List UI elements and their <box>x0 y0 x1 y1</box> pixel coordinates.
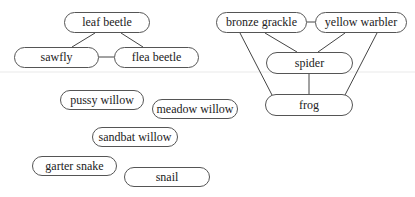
edge-bronze-grackle-to-spider <box>265 33 297 52</box>
node-label: garter snake <box>45 159 103 174</box>
node-label: sandbat willow <box>99 130 172 145</box>
node-label: spider <box>295 56 324 71</box>
edge-leaf-beetle-to-flea-beetle <box>121 33 143 47</box>
node-sawfly[interactable]: sawfly <box>14 47 99 68</box>
node-leaf-beetle[interactable]: leaf beetle <box>64 12 150 33</box>
node-spider[interactable]: spider <box>266 52 353 74</box>
node-label: flea beetle <box>132 50 182 65</box>
edge-yellow-warbler-to-spider <box>318 33 345 52</box>
node-frog[interactable]: frog <box>265 94 353 116</box>
node-meadow-willow[interactable]: meadow willow <box>152 99 238 119</box>
node-pussy-willow[interactable]: pussy willow <box>60 90 144 110</box>
node-label: leaf beetle <box>82 15 132 30</box>
node-garter-snake[interactable]: garter snake <box>32 156 117 176</box>
node-label: yellow warbler <box>325 15 397 30</box>
node-label: sawfly <box>41 50 73 65</box>
node-sandbat-willow[interactable]: sandbat willow <box>92 127 178 147</box>
node-label: meadow willow <box>157 102 234 117</box>
node-label: snail <box>156 170 179 185</box>
node-label: pussy willow <box>70 93 134 108</box>
edge-leaf-beetle-to-sawfly <box>72 33 95 47</box>
node-flea-beetle[interactable]: flea beetle <box>114 47 199 68</box>
node-label: bronze grackle <box>226 15 297 30</box>
node-yellow-warbler[interactable]: yellow warbler <box>315 12 407 33</box>
node-snail[interactable]: snail <box>124 167 210 187</box>
food-web-diagram: leaf beetlesawflyflea beetlebronze grack… <box>0 0 415 197</box>
node-bronze-grackle[interactable]: bronze grackle <box>216 12 307 33</box>
node-label: frog <box>299 98 319 113</box>
